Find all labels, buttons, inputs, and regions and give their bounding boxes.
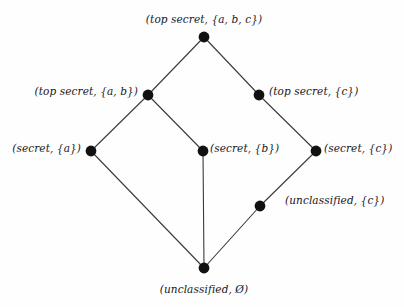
lattice-node[interactable] — [143, 90, 154, 101]
lattice-node[interactable] — [254, 90, 265, 101]
lattice-edge — [203, 151, 204, 268]
lattice-edge — [148, 37, 204, 95]
lattice-node[interactable] — [199, 263, 210, 274]
lattice-edge — [204, 206, 260, 268]
lattice-node-label: (top secret, {a, b}) — [35, 86, 138, 97]
lattice-node[interactable] — [199, 32, 210, 43]
lattice-node[interactable] — [311, 146, 322, 157]
lattice-node-label: (unclassified, {c}) — [285, 195, 384, 206]
lattice-edge — [91, 95, 148, 151]
lattice-node-label: (secret, {a}) — [12, 143, 81, 154]
lattice-diagram: (top secret, {a, b, c})(top secret, {a, … — [0, 0, 404, 307]
lattice-node-label: (top secret, {c}) — [269, 86, 358, 97]
lattice-node[interactable] — [198, 146, 209, 157]
lattice-edge — [148, 95, 203, 151]
lattice-edge — [204, 37, 259, 95]
lattice-node-label: (secret, {c}) — [324, 143, 392, 154]
lattice-node[interactable] — [255, 201, 266, 212]
lattice-node-label: (top secret, {a, b, c}) — [146, 14, 262, 25]
lattice-node-label: (unclassified, Ø) — [160, 284, 249, 295]
lattice-node[interactable] — [86, 146, 97, 157]
lattice-edge — [91, 151, 204, 268]
lattice-node-label: (secret, {b}) — [210, 143, 279, 154]
